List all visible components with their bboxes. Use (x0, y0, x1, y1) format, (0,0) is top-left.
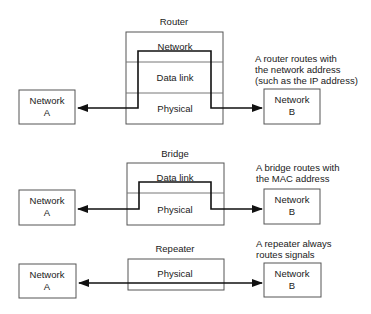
bridge-title: Bridge (161, 148, 188, 159)
bridge-network-b-letter: B (289, 206, 295, 217)
repeater-note-line: A repeater always (256, 238, 332, 249)
repeater-device-box: Physical (128, 259, 224, 290)
bridge-note: A bridge routes with the MAC address (256, 162, 339, 184)
router-section: Router Network Data link Physical Networ… (19, 16, 358, 124)
router-network-b: Network B (264, 89, 320, 124)
router-note-line: A router routes with (255, 53, 337, 64)
router-layer-datalink: Data link (157, 72, 194, 83)
bridge-network-a: Network A (19, 190, 75, 225)
bridge-network-a-label: Network (30, 195, 65, 206)
repeater-network-a: Network A (19, 264, 76, 298)
repeater-network-b: Network B (264, 263, 321, 297)
bridge-layer-physical: Physical (157, 204, 192, 215)
bridge-network-b: Network B (264, 189, 320, 224)
router-network-b-label: Network (275, 94, 310, 105)
router-network-a-letter: A (44, 107, 51, 118)
repeater-layer-physical: Physical (157, 268, 192, 279)
bridge-network-a-letter: A (44, 207, 51, 218)
bridge-network-b-label: Network (275, 194, 310, 205)
router-network-a: Network A (19, 90, 75, 124)
router-note: A router routes with the network address… (255, 53, 358, 86)
repeater-note: A repeater always routes signals (256, 238, 332, 260)
bridge-device-box: Data link Physical (127, 163, 224, 225)
bridge-note-line: A bridge routes with (256, 162, 339, 173)
repeater-network-b-label: Network (275, 268, 310, 279)
network-devices-diagram: Router Network Data link Physical Networ… (0, 0, 371, 314)
router-note-line: the network address (255, 64, 341, 75)
router-network-b-letter: B (289, 106, 295, 117)
repeater-network-a-letter: A (44, 281, 51, 292)
router-device-box: Network Data link Physical (126, 32, 223, 124)
router-layer-physical: Physical (157, 103, 192, 114)
bridge-note-line: the MAC address (256, 173, 330, 184)
repeater-network-b-letter: B (289, 280, 295, 291)
repeater-note-line: routes signals (256, 249, 315, 260)
router-title: Router (160, 16, 189, 27)
router-note-line: (such as the IP address) (255, 75, 358, 86)
repeater-title: Repeater (155, 243, 194, 254)
bridge-section: Bridge Data link Physical Network A Netw… (19, 148, 339, 225)
repeater-network-a-label: Network (30, 269, 65, 280)
repeater-section: Repeater Physical Network A Network B A … (19, 238, 332, 298)
router-network-a-label: Network (30, 95, 65, 106)
